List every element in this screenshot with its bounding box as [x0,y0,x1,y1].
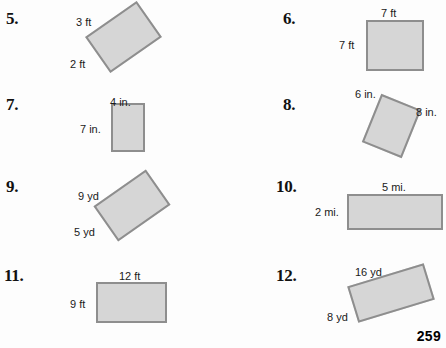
label-6-side-b: 7 ft [339,40,354,51]
page-number: 259 [417,328,441,344]
label-5-side-b: 2 ft [70,59,85,70]
label-7-side-a: 4 in. [110,97,131,108]
label-9-side-b: 5 yd [74,227,95,238]
problem-number-12: 12. [276,267,296,284]
label-7-side-b: 7 in. [80,124,101,135]
shape-square-6 [366,20,424,71]
shape-rotated-rectangle-9 [93,170,170,242]
label-11-side-b: 9 ft [70,299,85,310]
label-12-side-a: 16 yd [355,267,382,278]
problem-number-10: 10. [276,178,296,195]
label-6-side-a: 7 ft [381,8,396,19]
label-12-side-b: 8 yd [327,312,348,323]
label-8-side-a: 6 in. [355,89,376,100]
label-10-side-b: 2 mi. [315,207,339,218]
shape-horizontal-rectangle-10 [347,194,443,230]
problem-number-11: 11. [4,267,23,284]
problem-number-6: 6. [283,10,295,27]
problem-number-5: 5. [6,10,18,27]
label-9-side-a: 9 yd [78,191,99,202]
worksheet-page: 5. 3 ft 2 ft 6. 7 ft 7 ft 7. 4 in. 7 in.… [0,0,446,348]
label-8-side-b: 8 in. [416,107,437,118]
shape-rotated-rectangle-8 [362,94,421,158]
problem-number-7: 7. [6,96,18,113]
shape-horizontal-rectangle-11 [96,282,167,323]
shape-vertical-rectangle-7 [111,103,145,152]
label-5-side-a: 3 ft [76,17,91,28]
problem-number-8: 8. [283,96,295,113]
label-11-side-a: 12 ft [119,271,140,282]
shape-rotated-rectangle-5 [85,1,162,73]
label-10-side-a: 5 mi. [382,182,406,193]
problem-number-9: 9. [6,178,18,195]
